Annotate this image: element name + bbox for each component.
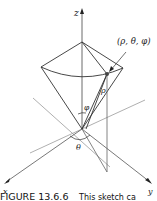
- z-axis-label: z: [73, 8, 79, 18]
- z-arrow-icon: [80, 8, 84, 14]
- projection-line: [82, 129, 107, 172]
- rho-label: ρ: [100, 86, 106, 95]
- x-axis: [4, 129, 82, 184]
- phi-label: φ: [84, 103, 90, 112]
- x-arrow-icon: [4, 178, 10, 184]
- y-axis-label: y: [147, 187, 153, 196]
- point-label: (ρ, θ, φ): [117, 36, 151, 46]
- figure-caption-text: This sketch ca: [78, 193, 136, 201]
- y-axis: [82, 129, 152, 184]
- spherical-coordinates-diagram: z x y (ρ, θ, φ) ρ φ θ FIGURE 13.6.6 This…: [0, 0, 157, 201]
- theta-label: θ: [76, 143, 81, 152]
- figure-caption-number: FIGURE 13.6.6: [0, 191, 68, 201]
- point-marker: [105, 72, 109, 76]
